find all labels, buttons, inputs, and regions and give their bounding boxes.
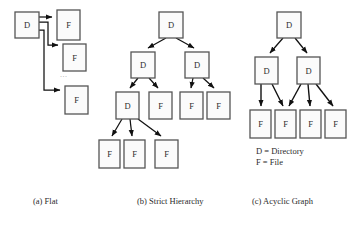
node-hierarchy-f2: F	[180, 92, 203, 119]
node-acyclic-f4: F	[325, 110, 346, 138]
node-label: F	[333, 119, 338, 129]
node-hierarchy-f5: F	[124, 140, 145, 168]
node-label: D	[24, 20, 30, 30]
caption-strict-hierarchy: (b) Strict Hierarchy	[137, 196, 204, 206]
node-hierarchy-f1: F	[149, 92, 172, 119]
node-label: D	[305, 66, 311, 76]
node-hierarchy-d1: D	[131, 52, 155, 78]
node-label: D	[194, 60, 200, 70]
node-label: F	[72, 53, 77, 63]
node-label: F	[189, 101, 194, 111]
node-acyclic-f1: F	[250, 110, 271, 138]
node-flat-f2: F	[63, 44, 86, 71]
node-label: F	[308, 119, 313, 129]
node-flat-f3: F	[65, 86, 88, 114]
node-label: D	[168, 20, 174, 30]
node-label: F	[283, 119, 288, 129]
node-hierarchy-f4: F	[99, 140, 120, 168]
node-acyclic-f2: F	[275, 110, 296, 138]
node-hierarchy-d2: D	[185, 52, 209, 78]
node-label: D	[124, 101, 130, 111]
caption-flat: (a) Flat	[33, 196, 58, 206]
node-flat-f1: F	[57, 10, 80, 40]
node-label: D	[286, 20, 292, 30]
node-label: F	[74, 95, 79, 105]
node-label: F	[164, 149, 169, 159]
filesystem-structures-figure: D F F F D	[0, 0, 354, 225]
node-hierarchy-f6: F	[155, 140, 178, 168]
node-acyclic-d0: D	[277, 12, 301, 38]
node-label: F	[107, 149, 112, 159]
node-flat-d: D	[15, 12, 39, 38]
legend-file: F = File	[256, 157, 283, 167]
node-hierarchy-d0: D	[159, 12, 183, 38]
legend-directory: D = Directory	[256, 146, 304, 156]
node-label: F	[132, 149, 137, 159]
node-label: F	[258, 119, 263, 129]
node-label: D	[140, 60, 146, 70]
node-acyclic-d1: D	[255, 57, 278, 84]
flat-ellipsis: ...	[60, 70, 68, 79]
node-label: F	[158, 101, 163, 111]
node-acyclic-d2: D	[297, 57, 320, 84]
node-label: D	[263, 66, 269, 76]
node-acyclic-f3: F	[300, 110, 321, 138]
caption-acyclic-graph: (c) Acyclic Graph	[252, 196, 313, 206]
node-label: F	[66, 20, 71, 30]
node-label: F	[216, 101, 221, 111]
node-hierarchy-d3: D	[116, 92, 139, 119]
node-hierarchy-f3: F	[207, 92, 230, 119]
